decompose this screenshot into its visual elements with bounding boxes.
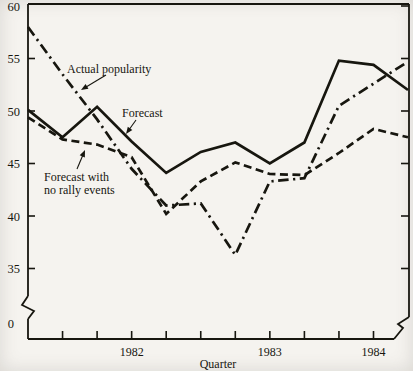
annotation-arrowhead (80, 150, 85, 158)
annotation-arrow-line (84, 75, 106, 88)
series-line-dashed (28, 117, 408, 214)
year-label: 1984 (362, 345, 386, 359)
annotation-arrowhead (81, 84, 88, 90)
annotation-label: Forecast (122, 106, 163, 120)
y-tick-label: 60 (8, 0, 21, 14)
year-label: 1983 (258, 345, 282, 359)
x-axis-title: Quarter (200, 357, 237, 371)
y-tick-label: 35 (8, 262, 21, 276)
y-tick-label: 50 (8, 105, 21, 119)
year-label: 1982 (120, 345, 144, 359)
annotation-arrowhead (126, 127, 132, 134)
y-tick-label: 55 (8, 52, 21, 66)
chart-canvas: 6055504540350198219831984QuarterActual p… (0, 0, 413, 371)
series-line-solid (28, 61, 408, 173)
x-axis-break (394, 317, 409, 339)
annotation-label: no rally events (44, 183, 115, 197)
annotation-label: Actual popularity (67, 62, 151, 76)
y-tick-label: 45 (8, 157, 21, 171)
y-axis-break (22, 296, 34, 319)
popularity-forecast-chart: 6055504540350198219831984QuarterActual p… (0, 0, 413, 371)
y-origin-label: 0 (8, 317, 14, 331)
annotation-label: Forecast with (44, 170, 109, 184)
y-tick-label: 40 (8, 210, 21, 224)
